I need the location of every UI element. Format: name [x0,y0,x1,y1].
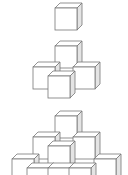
cube-front-face [73,67,95,89]
cube-figure-3 [12,111,121,175]
cube-side-face [77,3,82,30]
cube-front-face [55,8,77,30]
cube-figure-1 [55,3,82,30]
cube-diagram [0,0,128,175]
cube [94,154,121,175]
cube-figure-2 [33,41,100,98]
cube-front-face [94,159,116,175]
cube-front-face [48,168,70,175]
cube-side-face [70,71,75,98]
cube-front-face [73,137,95,159]
cube-front-face [69,168,91,175]
cube-front-face [27,168,49,175]
cube-side-face [95,62,100,89]
cube [69,163,96,175]
cube-front-face [48,76,70,98]
cube [73,62,100,89]
cube [55,3,82,30]
cube [73,132,100,159]
cube [48,71,75,98]
